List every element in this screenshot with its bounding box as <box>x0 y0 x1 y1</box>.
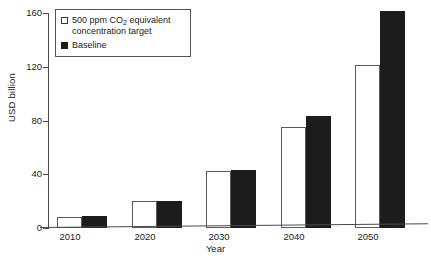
bar-target-2050 <box>355 65 380 228</box>
filled-square-icon <box>61 42 68 49</box>
bar-baseline-2030 <box>231 170 256 228</box>
chart-legend: 500 ppm CO2 equivalentconcentration targ… <box>55 9 191 57</box>
y-tick-label-40: 40 <box>2 169 42 179</box>
bar-target-2020 <box>132 201 157 228</box>
legend-label-target-line2: concentration target <box>72 26 152 36</box>
y-tick-label-160: 160 <box>2 8 42 18</box>
y-tick-label-80: 80 <box>2 116 42 126</box>
legend-label-baseline: Baseline <box>72 40 107 51</box>
x-tick-label-2010: 2010 <box>40 231 100 242</box>
bar-target-2040 <box>281 127 306 228</box>
legend-label-target-part2: equivalent <box>127 15 171 25</box>
legend-label-target-subscript: 2 <box>123 19 127 26</box>
x-axis-title: Year <box>0 243 431 254</box>
x-tick-label-2030: 2030 <box>189 231 249 242</box>
legend-label-target: 500 ppm CO2 equivalentconcentration targ… <box>72 15 170 37</box>
bar-chart: USD billion 160 120 80 40 0 <box>0 0 431 259</box>
x-tick-label-2050: 2050 <box>338 231 398 242</box>
bar-baseline-2040 <box>306 116 331 228</box>
bar-baseline-2050 <box>380 11 405 228</box>
legend-entry-target: 500 ppm CO2 equivalentconcentration targ… <box>61 15 186 37</box>
x-tick-label-2020: 2020 <box>115 231 175 242</box>
y-tick-label-0: 0 <box>2 223 42 233</box>
legend-label-target-part1: 500 ppm CO <box>72 15 123 25</box>
bar-baseline-2020 <box>157 201 182 228</box>
y-tick-label-120: 120 <box>2 62 42 72</box>
y-tick-0 <box>43 228 49 229</box>
x-tick-label-2040: 2040 <box>264 231 324 242</box>
legend-entry-baseline: Baseline <box>61 40 186 51</box>
bar-target-2030 <box>206 171 231 228</box>
open-square-icon <box>61 17 68 24</box>
